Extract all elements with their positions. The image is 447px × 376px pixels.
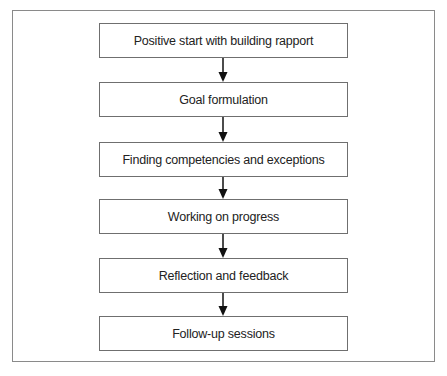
step-label: Reflection and feedback: [159, 269, 289, 283]
arrow-down-icon: [218, 293, 228, 316]
step-box-rapport: Positive start with building rapport: [99, 23, 348, 58]
step-label: Positive start with building rapport: [134, 34, 314, 48]
step-label: Goal formulation: [179, 93, 268, 107]
step-label: Follow-up sessions: [172, 327, 275, 341]
step-box-goal: Goal formulation: [99, 82, 348, 117]
arrow-down-icon: [218, 117, 228, 142]
step-label: Finding competencies and exceptions: [122, 153, 324, 167]
arrow-down-icon: [218, 234, 228, 258]
step-box-reflection: Reflection and feedback: [99, 258, 348, 293]
step-box-competencies: Finding competencies and exceptions: [99, 142, 348, 177]
step-box-progress: Working on progress: [99, 199, 348, 234]
arrow-down-icon: [218, 58, 228, 82]
step-box-follow-up: Follow-up sessions: [99, 316, 348, 351]
arrow-down-icon: [218, 177, 228, 199]
step-label: Working on progress: [168, 210, 279, 224]
